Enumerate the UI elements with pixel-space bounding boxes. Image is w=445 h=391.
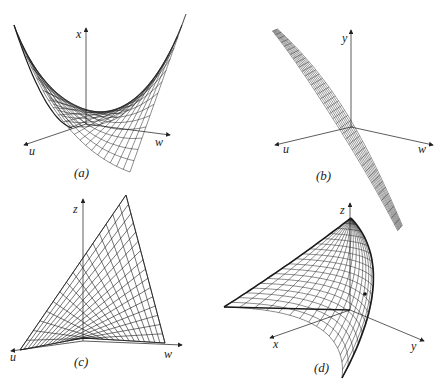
caption-b: (b) <box>316 169 331 182</box>
panel-b <box>273 29 434 231</box>
panel-c <box>11 195 182 351</box>
surface-mesh-d <box>224 218 373 378</box>
axis-label-b-left: u <box>283 143 289 155</box>
axis-label-c-vertical: z <box>73 203 78 215</box>
figure-canvas <box>0 0 445 391</box>
caption-a: (a) <box>74 166 89 179</box>
axes-b <box>275 30 433 145</box>
axes-c <box>11 199 182 351</box>
axis-label-d-vertical: z <box>340 204 345 216</box>
panel-d <box>224 203 424 378</box>
axis-label-c-left: u <box>10 351 16 363</box>
marked-point-d <box>363 292 367 296</box>
axis-label-a-right: w <box>155 136 163 148</box>
axis-label-d-right: y <box>411 340 416 352</box>
caption-c: (c) <box>74 355 88 368</box>
caption-d: (d) <box>314 361 329 374</box>
axis-label-a-left: u <box>29 145 35 157</box>
axis-label-b-vertical: y <box>342 32 347 44</box>
axis-label-d-left: x <box>273 338 278 350</box>
axis-label-a-vertical: x <box>76 28 81 40</box>
axis-label-c-right: w <box>164 348 172 360</box>
surface-mesh-c <box>20 195 165 350</box>
axis-label-b-right: w <box>418 143 426 155</box>
